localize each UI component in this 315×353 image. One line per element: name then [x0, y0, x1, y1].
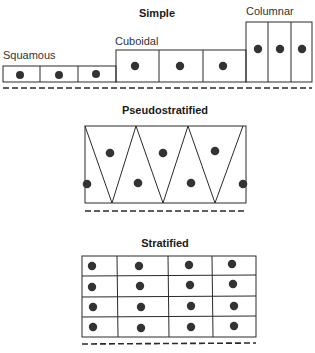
nucleus [228, 260, 236, 268]
nucleus [230, 302, 238, 310]
nucleus [176, 62, 184, 70]
nucleus [89, 303, 97, 311]
epithelium-diagram: Simple Squamous Cuboidal Columnar [0, 0, 315, 353]
nucleus [187, 302, 195, 310]
simple-section: Simple Squamous Cuboidal Columnar [3, 5, 312, 88]
columnar-epithelium: Columnar [246, 5, 312, 82]
pseudostratified-outline [85, 126, 246, 203]
cuboidal-epithelium: Cuboidal [115, 35, 246, 82]
nucleus [55, 71, 63, 79]
nucleus [185, 261, 193, 269]
nucleus [239, 180, 248, 189]
nucleus [134, 179, 143, 188]
nucleus [106, 149, 115, 158]
nucleus [137, 324, 145, 332]
cuboidal-label: Cuboidal [115, 35, 158, 47]
nucleus [83, 180, 92, 189]
col-divider [117, 256, 118, 337]
cell-boundaries [85, 126, 243, 203]
stratified-title: Stratified [141, 237, 189, 249]
nucleus [229, 280, 237, 288]
nucleus [131, 62, 139, 70]
nucleus [137, 303, 145, 311]
squamous-label: Squamous [3, 49, 56, 61]
nucleus [219, 62, 227, 70]
nucleus [88, 283, 96, 291]
nucleus [136, 282, 144, 290]
simple-title: Simple [139, 7, 175, 19]
nucleus [187, 323, 195, 331]
stratified-section: Stratified [82, 237, 256, 344]
nucleus [187, 179, 196, 188]
nucleus [254, 45, 262, 53]
pseudostratified-section: Pseudostratified [83, 104, 248, 211]
col-divider [168, 256, 169, 337]
nucleus [16, 71, 24, 79]
row-divider [82, 275, 256, 276]
pseudostratified-title: Pseudostratified [122, 104, 208, 116]
nucleus [135, 262, 143, 270]
nucleus [211, 147, 220, 156]
columnar-label: Columnar [246, 5, 294, 17]
nucleus [276, 45, 284, 53]
squamous-epithelium: Squamous [3, 49, 116, 82]
nucleus [159, 149, 168, 158]
nucleus [298, 45, 306, 53]
basement-membrane [82, 343, 256, 344]
nucleus [186, 281, 194, 289]
nucleus [92, 70, 100, 78]
col-divider [212, 256, 213, 337]
nucleus [88, 262, 96, 270]
nucleus [89, 323, 97, 331]
nucleus [230, 322, 238, 330]
